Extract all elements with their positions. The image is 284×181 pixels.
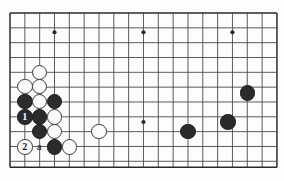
black-stone-right-low [180,124,195,139]
move-number: 1 [22,112,27,122]
white-stone-move-2: 2 [17,139,32,154]
star-point [141,30,145,34]
black-stone-center-low [32,109,47,124]
star-point [141,120,145,124]
white-stone-right-mid [47,109,62,124]
black-stone-right-high [240,85,255,100]
black-stone-right-mid [220,114,235,129]
black-stone-right-wall [47,94,62,109]
move-number: 2 [22,142,27,152]
black-stone-move-1: 1 [17,109,32,124]
go-diagram: 12a [0,0,284,181]
point-label-a: a [37,141,42,152]
white-stone-bottom-right [62,139,77,154]
white-stone-isolated [91,124,106,139]
white-stone-left-upper [17,79,32,94]
star-point [52,30,56,34]
star-point [230,30,234,34]
black-stone-left-a [17,94,32,109]
black-stone-bottom [47,139,62,154]
